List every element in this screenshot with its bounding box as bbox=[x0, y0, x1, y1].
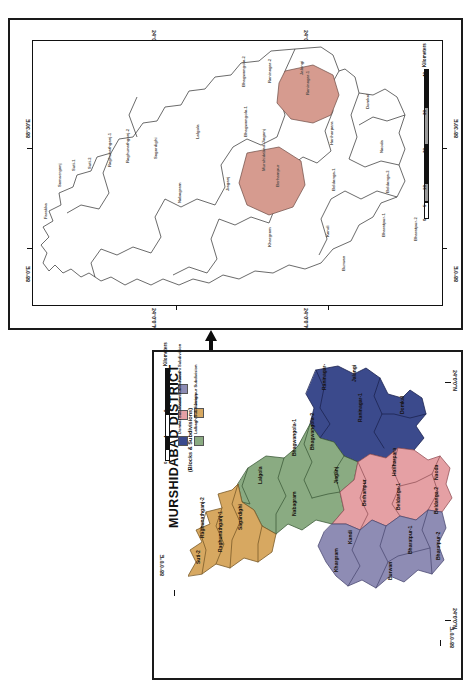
inset-map-panel: 88°30'E 88°0'E 88°30'E 88°0'E 24°0'0"N 2… bbox=[8, 18, 463, 330]
figure-canvas: 88°30'E 88°0'E 88°30'E 88°0'E 24°0'0"N 2… bbox=[0, 0, 470, 698]
main-scale-seg-8-4 bbox=[165, 368, 170, 414]
main-scale-num-4: 4 bbox=[164, 436, 168, 438]
scale-num-5: 5 bbox=[423, 205, 427, 207]
inset-block-label: Sagardighi bbox=[153, 137, 158, 159]
inset-lon-label-left-top: 88°30'E bbox=[26, 119, 31, 138]
block-label-khargram: Khargram bbox=[333, 548, 339, 572]
block-label-raghunathganj-2: Raghunathganj-2 bbox=[199, 497, 205, 538]
inset-block-label: Nabagram bbox=[177, 182, 182, 203]
scale-num-30: 30 bbox=[423, 110, 427, 115]
inset-block-label: Berhampur bbox=[275, 164, 280, 187]
main-scale-seg-4-2 bbox=[165, 414, 170, 437]
block-label-domkal: Domkal bbox=[399, 395, 405, 414]
scale-num-40: 40 bbox=[423, 72, 427, 77]
main-scale-seg-1-0 bbox=[165, 449, 170, 461]
inset-block-label: Domkal bbox=[365, 94, 370, 109]
inset-block-label: Khargram bbox=[267, 227, 272, 247]
scale-num-20: 20 bbox=[423, 148, 427, 153]
block-label-bharatpur-2: Bharatpur-2 bbox=[435, 531, 441, 560]
block-label-berhampur: Berhampur bbox=[361, 479, 367, 506]
main-scale-bar: Kilometers 8 4 0 bbox=[160, 368, 176, 468]
inset-block-label: Beldanga-1 bbox=[331, 168, 336, 191]
scale-num-10: 10 bbox=[423, 185, 427, 190]
block-label-lalgola: Lalgola bbox=[257, 466, 263, 484]
inset-map-graphic: Jalangi Domkal Raninagar-2 Raninagar-1 B… bbox=[33, 41, 448, 311]
inset-block-label: Lalgola bbox=[195, 124, 200, 139]
main-lon-label-left: 88°0'0"E bbox=[160, 554, 165, 576]
inset-block-label: Jiaganj bbox=[225, 177, 230, 191]
block-label-bhagwangola-1: Bhagwangola-1 bbox=[291, 419, 297, 456]
inset-block-label: Suti-2 bbox=[87, 157, 92, 169]
legend-label-domkal: Domkal Subdivision bbox=[178, 395, 182, 434]
legend-swatch-domkal bbox=[178, 436, 188, 446]
inset-map-neatline: Jalangi Domkal Raninagar-2 Raninagar-1 B… bbox=[32, 40, 443, 306]
block-label-jalangi: Jalangi bbox=[351, 364, 357, 382]
inset-lon-label-right-top: 88°30'E bbox=[454, 119, 459, 138]
inset-block-label: Hariharpara bbox=[329, 121, 334, 145]
block-label-jiaganj: Jiaganj bbox=[333, 466, 339, 484]
inset-block-label: Bhagwangola-2 bbox=[241, 55, 246, 87]
block-label-raninagar-2: Raninagar-2 bbox=[321, 364, 327, 390]
main-scale-unit: Kilometers bbox=[164, 342, 169, 366]
main-scale-num-8: 8 bbox=[164, 410, 168, 412]
inset-block-label: Farakka bbox=[43, 202, 48, 219]
inset-block-label: Kandi bbox=[325, 225, 330, 237]
inset-block-label: Bharatpur-2 bbox=[413, 217, 418, 241]
inset-block-label: Jalangi bbox=[299, 61, 304, 75]
scale-num-0: 0 bbox=[423, 219, 427, 221]
block-label-bharatpur-1: Bharatpur-1 bbox=[407, 525, 413, 554]
inset-block-label: Raghunathganj-2 bbox=[125, 128, 130, 163]
block-label-nabagram: Nabagram bbox=[291, 491, 297, 516]
inset-block-label: Samserganj bbox=[57, 163, 62, 187]
main-scale-num-0: 0 bbox=[164, 462, 168, 464]
inset-block-label: Suti-1 bbox=[71, 159, 76, 171]
block-label-beldanga-2: Beldanga-2 bbox=[433, 487, 439, 514]
block-label-kandi: Kandi bbox=[347, 530, 353, 545]
inset-scale-bar: Kilometers 40 30 20 10 5 0 bbox=[418, 69, 436, 219]
inset-block-label: Beldanga-2 bbox=[385, 170, 390, 193]
main-scale-seg-2-1 bbox=[165, 437, 170, 449]
main-map-panel: MURSHIDABAD DISTRICT 24°0'0"N 24°0'0"N 8… bbox=[152, 350, 463, 680]
inset-lat-label-bottom-right: 24°0'0"N bbox=[303, 308, 308, 330]
inset-block-label: Naoda bbox=[379, 140, 384, 153]
main-tick-left-1 bbox=[174, 590, 175, 596]
main-map-graphic: Jalangi Domkal Raninagar-2 Raninagar-1 B… bbox=[188, 364, 456, 664]
block-label-burwan: Burwan bbox=[387, 562, 393, 580]
inset-lon-label-right-bottom: 88°0'E bbox=[454, 266, 459, 282]
inset-lat-label-bottom-left: 24°0'0"N bbox=[151, 308, 156, 330]
inset-block-label: Raninagar-2 bbox=[267, 58, 272, 83]
inset-lon-label-left-bottom: 88°0'E bbox=[26, 266, 31, 282]
scale-unit-label: Kilometers bbox=[423, 43, 428, 67]
block-label-hariharpara: Hariharpara bbox=[391, 448, 397, 476]
inset-block-label: Burwan bbox=[341, 255, 346, 271]
block-label-raghunathganj-1: Raghunathganj-1 bbox=[217, 511, 223, 552]
inset-block-label: Bharatpur-1 bbox=[381, 213, 386, 237]
inset-block-label: Raghunathganj-1 bbox=[107, 132, 112, 167]
inset-block-label: Murshidabad-Jiaganj bbox=[261, 129, 266, 171]
block-label-bhagwangola-2: Bhagwangola-2 bbox=[309, 413, 315, 450]
block-label-raninagar-1: Raninagar-1 bbox=[357, 393, 363, 422]
block-label-naoda: Naoda bbox=[433, 465, 439, 481]
block-label-sagardighi: Sagardighi bbox=[237, 504, 243, 530]
block-label-beldanga-1: Beldanga-1 bbox=[395, 483, 401, 510]
inset-block-label: Raninagar-1 bbox=[305, 70, 310, 95]
inset-block-label: Bhagwangola-1 bbox=[243, 105, 248, 137]
block-label-suti-2: Suti-2 bbox=[195, 550, 201, 564]
